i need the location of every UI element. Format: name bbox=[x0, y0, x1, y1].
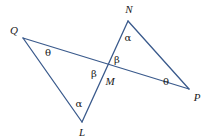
angle-beta-at-M-left: β bbox=[91, 69, 97, 79]
point-label-N: N bbox=[125, 4, 132, 15]
point-label-P: P bbox=[194, 92, 201, 103]
angle-theta-at-P: θ bbox=[163, 77, 169, 87]
angle-alpha-at-N: α bbox=[125, 33, 132, 43]
geometry-figure: Q N L P M θ α β β α θ bbox=[0, 0, 208, 138]
angle-alpha-at-L: α bbox=[76, 99, 83, 109]
point-label-L: L bbox=[79, 127, 85, 138]
segment-N-P bbox=[128, 21, 189, 89]
segment-N-L bbox=[82, 21, 128, 122]
angle-theta-at-Q: θ bbox=[45, 48, 51, 58]
segments-group bbox=[23, 21, 189, 122]
segment-Q-L bbox=[23, 38, 82, 122]
angle-beta-at-M-right: β bbox=[114, 55, 120, 65]
diagram-canvas bbox=[0, 0, 208, 138]
point-label-Q: Q bbox=[10, 25, 18, 36]
point-label-M: M bbox=[105, 76, 114, 87]
